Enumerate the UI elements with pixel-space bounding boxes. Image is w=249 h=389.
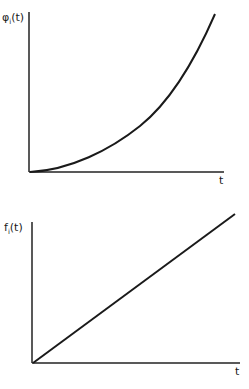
bottom-x-axis-label: t bbox=[235, 366, 239, 378]
top-x-axis-label: t bbox=[219, 175, 223, 187]
top-y-axis-label: φi(t) bbox=[2, 12, 24, 28]
bottom-plot-canvas bbox=[0, 195, 249, 389]
y-label-argument: (t) bbox=[11, 11, 24, 24]
top-plot-canvas bbox=[0, 0, 249, 195]
f-line bbox=[33, 214, 235, 363]
phi-curve bbox=[30, 14, 215, 172]
bottom-plot: fi(t) t bbox=[0, 195, 249, 389]
bottom-y-axis-label: fi(t) bbox=[4, 222, 23, 238]
top-plot: φi(t) t bbox=[0, 0, 249, 195]
y-label-argument: (t) bbox=[10, 221, 23, 234]
